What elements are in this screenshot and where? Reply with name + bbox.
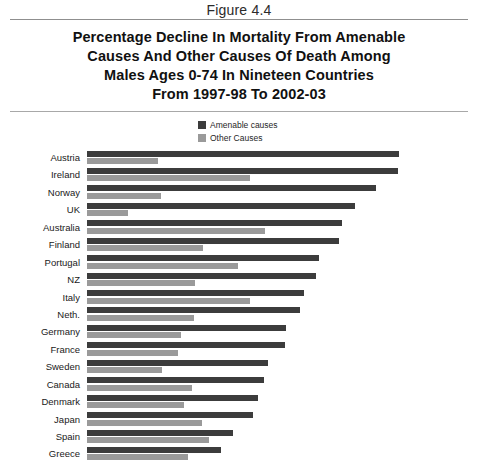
- chart-row: Portugal: [0, 254, 478, 271]
- category-label-norway: Norway: [0, 184, 80, 201]
- chart-row: Austria: [0, 149, 478, 166]
- bar-other: [87, 280, 195, 286]
- chart-title-line-3: Males Ages 0-74 In Nineteen Countries: [18, 66, 460, 85]
- legend-item-amenable: Amenable causes: [198, 119, 478, 130]
- chart-title-line-4: From 1997-98 To 2002-03: [18, 85, 460, 104]
- bar-other: [87, 298, 250, 304]
- bar-amenable: [87, 395, 258, 401]
- chart-row: Canada: [0, 376, 478, 393]
- bar-amenable: [87, 185, 376, 191]
- bar-other: [87, 454, 188, 460]
- category-label-canada: Canada: [0, 376, 80, 393]
- chart-row: Spain: [0, 428, 478, 445]
- bar-amenable: [87, 325, 286, 331]
- bar-amenable: [87, 168, 398, 174]
- chart-title-line-2: Causes And Other Causes Of Death Among: [18, 47, 460, 66]
- chart-row: NZ: [0, 271, 478, 288]
- bar-group: [87, 341, 478, 358]
- category-label-greece: Greece: [0, 445, 80, 460]
- bar-group: [87, 306, 478, 323]
- category-label-neth: Neth.: [0, 306, 80, 323]
- bar-group: [87, 358, 478, 375]
- chart-row: Finland: [0, 236, 478, 253]
- chart-legend: Amenable causes Other Causes: [0, 119, 478, 143]
- legend-swatch-other-icon: [198, 134, 206, 142]
- bar-group: [87, 289, 478, 306]
- legend-label-amenable: Amenable causes: [210, 120, 278, 130]
- bar-other: [87, 420, 202, 426]
- category-label-finland: Finland: [0, 236, 80, 253]
- bar-group: [87, 376, 478, 393]
- chart-row: Norway: [0, 184, 478, 201]
- bar-amenable: [87, 307, 300, 313]
- bar-group: [87, 166, 478, 183]
- bar-amenable: [87, 203, 355, 209]
- bar-other: [87, 228, 265, 234]
- bar-group: [87, 254, 478, 271]
- legend-label-other: Other Causes: [210, 133, 262, 143]
- category-label-sweden: Sweden: [0, 358, 80, 375]
- bar-group: [87, 149, 478, 166]
- bar-amenable: [87, 360, 268, 366]
- chart-row: Denmark: [0, 393, 478, 410]
- category-label-denmark: Denmark: [0, 393, 80, 410]
- chart-title-line-1: Percentage Decline In Mortality From Ame…: [18, 28, 460, 47]
- bar-other: [87, 367, 162, 373]
- legend-swatch-amenable-icon: [198, 121, 206, 129]
- bar-other: [87, 175, 250, 181]
- bar-other: [87, 210, 128, 216]
- category-label-portugal: Portugal: [0, 254, 80, 271]
- chart-row: Australia: [0, 219, 478, 236]
- category-label-france: France: [0, 341, 80, 358]
- bar-group: [87, 428, 478, 445]
- bar-group: [87, 236, 478, 253]
- bar-amenable: [87, 151, 399, 157]
- chart-row: Neth.: [0, 306, 478, 323]
- bar-group: [87, 201, 478, 218]
- bar-other: [87, 332, 181, 338]
- bar-other: [87, 315, 194, 321]
- bar-other: [87, 263, 238, 269]
- figure-container: Figure 4.4 Percentage Decline In Mortali…: [0, 0, 478, 460]
- bar-other: [87, 158, 158, 164]
- bar-amenable: [87, 273, 316, 279]
- bar-group: [87, 184, 478, 201]
- bar-amenable: [87, 255, 319, 261]
- chart-title: Percentage Decline In Mortality From Ame…: [0, 20, 478, 111]
- chart-row: Japan: [0, 411, 478, 428]
- bar-group: [87, 411, 478, 428]
- chart-row: Germany: [0, 323, 478, 340]
- chart-row: UK: [0, 201, 478, 218]
- category-label-japan: Japan: [0, 411, 80, 428]
- bar-group: [87, 393, 478, 410]
- bar-other: [87, 402, 184, 408]
- bar-amenable: [87, 220, 342, 226]
- figure-caption: Figure 4.4: [0, 0, 478, 19]
- category-label-italy: Italy: [0, 289, 80, 306]
- bar-group: [87, 323, 478, 340]
- bar-amenable: [87, 377, 264, 383]
- chart-row: Italy: [0, 289, 478, 306]
- bar-other: [87, 385, 192, 391]
- category-label-austria: Austria: [0, 149, 80, 166]
- chart-row: France: [0, 341, 478, 358]
- bar-amenable: [87, 238, 339, 244]
- category-label-ireland: Ireland: [0, 166, 80, 183]
- bar-group: [87, 219, 478, 236]
- chart-row: Greece: [0, 445, 478, 460]
- bar-other: [87, 350, 178, 356]
- bar-amenable: [87, 290, 304, 296]
- bar-other: [87, 245, 203, 251]
- category-label-nz: NZ: [0, 271, 80, 288]
- bar-amenable: [87, 412, 253, 418]
- bar-group: [87, 445, 478, 460]
- bar-amenable: [87, 342, 285, 348]
- chart-plot-area: AustriaIrelandNorwayUKAustraliaFinlandPo…: [0, 149, 478, 460]
- category-label-uk: UK: [0, 201, 80, 218]
- legend-item-other: Other Causes: [198, 132, 478, 143]
- chart-row: Sweden: [0, 358, 478, 375]
- bar-other: [87, 193, 161, 199]
- bar-amenable: [87, 447, 221, 453]
- bar-other: [87, 437, 209, 443]
- chart-row: Ireland: [0, 166, 478, 183]
